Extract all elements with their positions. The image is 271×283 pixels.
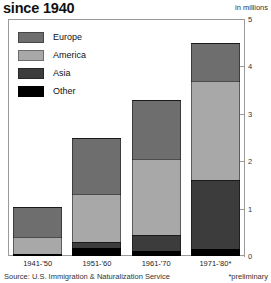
x-axis-tick-label: 1951-'60 bbox=[82, 259, 111, 268]
y-axis-tick-label: 0 bbox=[248, 252, 252, 261]
y-axis-tick-label: 5 bbox=[248, 15, 252, 24]
y-axis-tick-label: 1 bbox=[248, 204, 252, 213]
bar-segment-america bbox=[191, 81, 240, 181]
bar-segment-america bbox=[13, 237, 62, 254]
bar-segment-europe bbox=[132, 100, 181, 159]
source-note: Source: U.S. Immigration & Naturalizatio… bbox=[4, 272, 170, 281]
bar-segment-europe bbox=[72, 138, 121, 195]
y-axis-tick-label: 2 bbox=[248, 157, 252, 166]
bar-196170[interactable] bbox=[132, 100, 181, 256]
bar-197180[interactable] bbox=[191, 43, 240, 256]
bar-segment-america bbox=[72, 194, 121, 241]
page-title: since 1940 bbox=[3, 0, 74, 16]
x-axis-tick-label: 1941-'50 bbox=[23, 259, 52, 268]
bar-segment-asia bbox=[72, 242, 121, 249]
bar-segment-other bbox=[191, 249, 240, 256]
x-axis-tick-label: 1971-'80* bbox=[199, 259, 231, 268]
x-axis-tick-label: 1961-'70 bbox=[142, 259, 171, 268]
bar-195160[interactable] bbox=[72, 138, 121, 257]
bar-segment-other bbox=[72, 248, 121, 256]
bar-194150[interactable] bbox=[13, 207, 62, 256]
y-axis-tick-label: 3 bbox=[248, 109, 252, 118]
bar-segment-america bbox=[132, 159, 181, 235]
bar-segment-europe bbox=[191, 43, 240, 81]
bar-segment-asia bbox=[132, 235, 181, 252]
bars-layer bbox=[8, 19, 245, 256]
preliminary-footnote: *preliminary bbox=[228, 272, 268, 281]
immigration-stacked-bar-chart: since 1940 in millions 012345 EuropeAmer… bbox=[0, 0, 271, 283]
bar-segment-other bbox=[132, 251, 181, 256]
bar-segment-asia bbox=[191, 180, 240, 249]
bar-segment-europe bbox=[13, 207, 62, 237]
y-axis-tick-label: 4 bbox=[248, 62, 252, 71]
units-label: in millions bbox=[235, 3, 268, 12]
bar-segment-other bbox=[13, 254, 62, 256]
